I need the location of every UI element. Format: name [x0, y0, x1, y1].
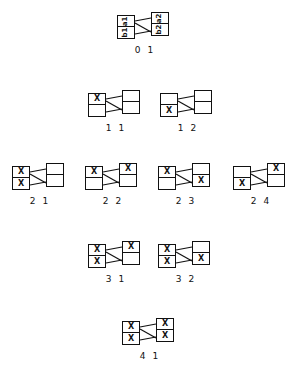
cell-left-top: a1: [118, 16, 134, 27]
edge-bottom-bottom: [178, 109, 194, 112]
cell-right-top: [47, 164, 63, 175]
cell-mark: X: [128, 243, 134, 251]
cell-mark: b1: [122, 28, 129, 38]
right-column: X: [122, 241, 140, 265]
cell-mark: b2: [156, 25, 163, 35]
cell-left-top: X: [13, 167, 29, 178]
cell-mark: X: [94, 246, 100, 254]
figure-body: XX2 2: [85, 163, 141, 193]
cell-right-top: X: [268, 164, 284, 175]
figure-fig-32: XXX3 2: [158, 241, 214, 271]
cell-left-top: X: [159, 167, 175, 178]
edge-diagonal: [30, 174, 46, 183]
figure-body: XX2 1: [12, 163, 68, 193]
cell-mark: X: [166, 106, 172, 114]
right-column: X: [267, 163, 285, 187]
edge-diagonal: [176, 252, 192, 261]
figure-body: XX2 3: [158, 163, 214, 193]
edge-bottom-bottom: [140, 337, 156, 340]
left-column: XX: [122, 321, 140, 345]
cell-left-bottom: X: [123, 333, 139, 344]
cell-right-bottom: [123, 102, 139, 113]
cell-mark: a2: [156, 13, 163, 23]
edge-diagonal: [140, 329, 156, 338]
right-column: [122, 90, 140, 114]
cell-right-bottom: b2: [152, 24, 168, 35]
edge-bottom-bottom: [30, 182, 46, 185]
diagram-canvas: a1b1a2b20 1X1 1X1 2XX2 1XX2 2XX2 3XX2 4X…: [0, 0, 291, 372]
cell-left-top: [161, 94, 177, 105]
cell-right-top: X: [120, 164, 136, 175]
cell-left-top: X: [123, 322, 139, 333]
cell-mark: X: [164, 168, 170, 176]
figure-body: XXXX4 1: [122, 318, 178, 348]
cell-left-bottom: X: [13, 178, 29, 189]
cell-mark: X: [128, 323, 134, 331]
edge-top-top: [106, 247, 122, 250]
figure-caption: 2 2: [85, 196, 141, 206]
cell-mark: X: [94, 95, 100, 103]
figure-fig-24: XX2 4: [233, 163, 289, 193]
cell-right-top: X: [157, 319, 173, 330]
cell-mark: X: [91, 168, 97, 176]
cell-right-bottom: X: [193, 253, 209, 264]
figure-body: XXX3 2: [158, 241, 214, 271]
left-column: a1b1: [117, 15, 135, 39]
left-column: X: [85, 166, 103, 190]
right-column: X: [192, 241, 210, 265]
edge-diagonal: [135, 23, 151, 32]
cell-right-top: [195, 91, 211, 102]
figure-body: X1 1: [88, 90, 144, 120]
edge-bottom-bottom: [106, 260, 122, 263]
figure-fig-12: X1 2: [160, 90, 216, 120]
left-column: X: [158, 166, 176, 190]
cell-mark: X: [125, 165, 131, 173]
figure-fig-01: a1b1a2b20 1: [117, 12, 173, 42]
cell-right-bottom: [123, 253, 139, 264]
cell-left-bottom: X: [89, 256, 105, 267]
cell-left-top: X: [159, 245, 175, 256]
edge-diagonal: [103, 174, 119, 183]
cell-right-top: [123, 91, 139, 102]
cell-left-bottom: [86, 178, 102, 189]
right-column: [46, 163, 64, 187]
left-column: XX: [158, 244, 176, 268]
left-column: XX: [88, 244, 106, 268]
figure-body: X1 2: [160, 90, 216, 120]
cell-left-bottom: b1: [118, 27, 134, 38]
right-column: [194, 90, 212, 114]
cell-right-top: X: [123, 242, 139, 253]
cell-mark: X: [18, 168, 24, 176]
figure-fig-23: XX2 3: [158, 163, 214, 193]
figure-caption: 1 1: [88, 123, 144, 133]
cell-left-bottom: X: [161, 105, 177, 116]
cell-left-top: X: [89, 94, 105, 105]
edge-bottom-bottom: [135, 31, 151, 34]
figure-fig-11: X1 1: [88, 90, 144, 120]
figure-body: a1b1a2b20 1: [117, 12, 173, 42]
left-column: X: [160, 93, 178, 117]
figure-caption: 0 1: [117, 45, 173, 55]
left-column: X: [88, 93, 106, 117]
cell-mark: X: [18, 179, 24, 187]
edge-top-top: [176, 247, 192, 250]
cell-mark: X: [128, 334, 134, 342]
figure-fig-41: XXXX4 1: [122, 318, 178, 348]
cell-left-top: X: [89, 245, 105, 256]
cell-mark: a1: [122, 16, 129, 26]
edge-bottom-bottom: [176, 182, 192, 185]
figure-caption: 3 1: [88, 274, 144, 284]
edge-diagonal: [176, 174, 192, 183]
figure-caption: 2 3: [158, 196, 214, 206]
edge-bottom-bottom: [106, 109, 122, 112]
figure-fig-21: XX2 1: [12, 163, 68, 193]
edge-bottom-bottom: [176, 260, 192, 263]
figure-body: XXX3 1: [88, 241, 144, 271]
edge-diagonal: [106, 252, 122, 261]
cell-right-bottom: X: [193, 175, 209, 186]
figure-caption: 3 2: [158, 274, 214, 284]
cell-left-bottom: X: [234, 178, 250, 189]
cell-mark: X: [198, 176, 204, 184]
cell-mark: X: [164, 246, 170, 254]
figure-fig-31: XXX3 1: [88, 241, 144, 271]
